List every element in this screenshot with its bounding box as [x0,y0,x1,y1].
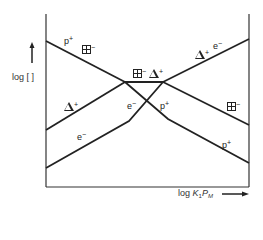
label-plateau-tri-plus: + [149,69,163,79]
label-top-left-box-minus: − [82,45,95,55]
label-lower-left-e-minus: e− [77,133,86,142]
y-axis-label: log [ ] [12,73,34,82]
label-center-p-plus: p+ [160,102,169,111]
x-axis-label: log K1PM [178,189,213,198]
box-plus-icon [227,102,236,111]
triangle-icon [195,50,205,59]
triangle-icon [149,69,159,78]
triangle-icon [64,102,74,111]
label-right-box-minus: − [227,102,240,112]
label-lower-right-p-plus: p+ [222,141,231,150]
box-plus-icon [82,45,91,54]
box-plus-icon [133,69,142,78]
label-left-tri-plus: + [64,102,78,112]
x-axis-arrowhead [242,192,249,197]
x-axis-label-prefix: log [178,188,193,198]
label-center-e-minus: e− [127,102,136,111]
y-axis-arrowhead [30,42,35,48]
label-top-right-e-minus: e− [213,42,222,51]
label-plateau-box-minus: − [133,69,146,79]
label-top-right-tri-plus: + [195,50,209,60]
x-axis-label-p-sub: M [208,193,213,199]
line-tri-plus-e-minus-upper [163,39,249,82]
line-tri-plus-left [46,82,125,130]
label-top-left-p-plus: p+ [64,37,73,46]
